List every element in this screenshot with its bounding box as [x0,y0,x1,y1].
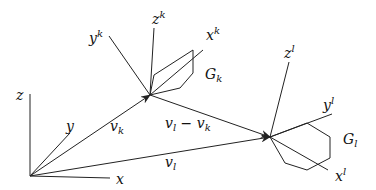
world-z-label: z [15,87,24,103]
body-gk-polygon [150,50,193,95]
vl-minus-vk-label: vl − vk [165,115,211,133]
world-y-label: y [65,118,75,134]
frame-l-y-axis [270,114,332,137]
vl-label: vl [165,154,176,172]
frame-l-x-axis [270,137,328,170]
world-x-label: x [116,171,124,187]
frame-l-x-label: xl [335,166,346,184]
vector-vk [30,95,150,176]
vk-label: vk [110,118,124,136]
frame-k-y-label: yk [88,28,103,46]
frame-l-z-label: zl [283,43,295,61]
world-x-axis [30,176,110,178]
frame-k-z-label: zk [151,9,165,27]
body-gl-polygon [270,123,330,170]
body-gl-label: Gl [343,131,357,149]
world-y-axis [30,133,70,176]
world-frame: z y x [15,87,124,187]
frames-diagram: z y x vk vl vl − vk zk yk xk [0,0,376,190]
frame-k: zk yk xk Gk [88,9,222,95]
frame-k-y-axis [109,36,150,95]
frame-k-x-label: xk [206,25,220,43]
body-gk-label: Gk [205,66,222,84]
position-vectors: vk vl vl − vk [30,95,270,176]
frame-l-y-label: yl [322,95,334,113]
vector-vl [30,137,270,176]
frame-l: zl yl xl Gl [270,43,357,184]
frame-l-z-axis [270,62,289,137]
